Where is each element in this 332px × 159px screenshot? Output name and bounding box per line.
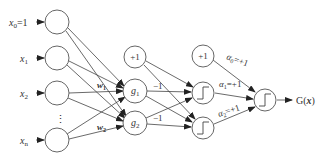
input-label-2: x2	[19, 88, 28, 101]
ellipsis: ⋮	[55, 113, 66, 125]
edge-weight-label: −1	[153, 81, 163, 91]
step-bias-label: +1	[198, 51, 208, 61]
input-node-2	[45, 81, 69, 105]
output-label: G(x)	[296, 95, 315, 107]
input-label-n: xn	[19, 135, 28, 148]
input-node-1	[45, 46, 69, 70]
alpha-label-1: α1=+1	[219, 79, 241, 90]
alpha-label-2: α2=+1	[217, 102, 242, 119]
edge-weight-label: −1	[153, 113, 163, 123]
alpha-label-0: α0=+1	[225, 51, 250, 69]
weight-label-w2: w2	[97, 122, 106, 133]
hidden-bias-label: +1	[130, 52, 140, 62]
input-label-0: x0=1	[8, 17, 28, 30]
weight-label-w1: w1	[97, 80, 106, 91]
input-label-1: x1	[19, 53, 28, 66]
input-node-n	[45, 128, 69, 152]
input-node-0	[45, 10, 69, 34]
neural-network-diagram: x0=1 x1 x2 xn ⋮ w1 w2 +1 g1 g2 +1 −1 −1 …	[0, 0, 332, 159]
